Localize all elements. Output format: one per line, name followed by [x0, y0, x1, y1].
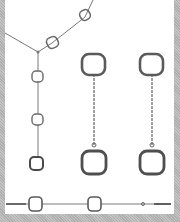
bracelet-link [29, 197, 42, 211]
bracelet [6, 197, 171, 211]
necklace [5, 0, 93, 170]
earring-top-link [82, 54, 105, 75]
necklace-link [32, 71, 43, 82]
earring-left [82, 54, 106, 174]
necklace-link [78, 8, 92, 22]
earring-right [140, 54, 164, 174]
earring-bottom-link [140, 151, 164, 174]
earring-top-link [140, 54, 163, 75]
necklace-link [30, 157, 43, 170]
bracelet-link [88, 197, 101, 211]
necklace-link [32, 114, 43, 125]
jewelry-illustration [0, 0, 180, 222]
earring-bottom-link [82, 151, 106, 174]
